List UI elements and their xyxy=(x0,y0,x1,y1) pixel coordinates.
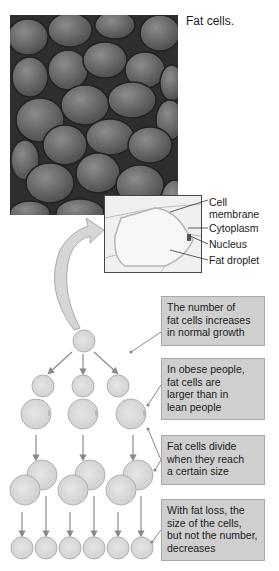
fat-cell-growth-diagram xyxy=(0,0,279,571)
callout-line: Fat cells divide xyxy=(167,440,259,453)
curved-arrow-icon xyxy=(54,218,104,330)
callout-line: larger than in xyxy=(167,388,259,401)
callout-cells-divide: Fat cells divide when they reach a certa… xyxy=(161,435,265,485)
callout-line: a certain size xyxy=(167,465,259,478)
callout-line: when they reach xyxy=(167,453,259,466)
callout-line: fat cells are xyxy=(167,376,259,389)
callout-line: size of the cells, xyxy=(167,517,259,530)
callout-line: The number of xyxy=(167,301,259,314)
callout-line: With fat loss, the xyxy=(167,504,259,517)
callout-line: decreases xyxy=(167,542,259,555)
callout-line: lean people xyxy=(167,401,259,414)
callout-fat-loss: With fat loss, the size of the cells, bu… xyxy=(161,499,265,561)
callout-line: fat cells increases xyxy=(167,314,259,327)
callout-line: but not the number, xyxy=(167,529,259,542)
callout-obese-larger: In obese people, fat cells are larger th… xyxy=(161,358,265,420)
callout-line: In obese people, xyxy=(167,363,259,376)
callout-line: in normal growth xyxy=(167,326,259,339)
callout-normal-growth: The number of fat cells increases in nor… xyxy=(161,296,265,346)
